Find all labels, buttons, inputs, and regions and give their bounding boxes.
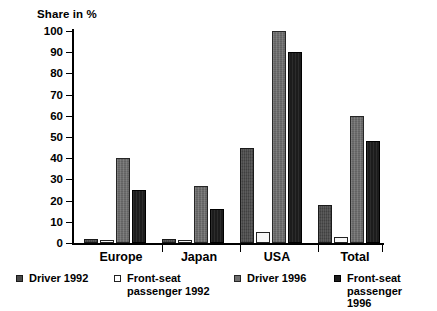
y-tick-mark [66,73,72,74]
x-axis-line [72,243,384,245]
legend-item-3[interactable]: Front-seat passenger 1996 [334,272,426,310]
legend-swatch-icon [114,275,121,282]
category-label-total: Total [310,250,400,264]
y-tick-label: 40 [50,152,63,164]
y-tick-mark [66,243,72,244]
legend-label: Front-seat passenger 1996 [347,272,426,310]
legend-label: Driver 1992 [29,272,88,285]
y-tick-label: 20 [50,195,63,207]
legend-item-1[interactable]: Front-seat passenger 1992 [114,272,210,297]
bar-total-series-1 [334,237,348,243]
bar-europe-series-3 [132,190,146,243]
y-tick-mark [66,201,72,202]
category-label-europe: Europe [76,250,166,264]
y-tick-mark [66,179,72,180]
legend-swatch-icon [234,275,241,282]
legend-swatch-icon [334,275,341,282]
category-label-japan: Japan [154,250,244,264]
y-tick-label: 50 [50,131,63,143]
y-tick-label: 100 [44,25,63,37]
bar-japan-series-2 [194,186,208,243]
y-tick-label: 30 [50,173,63,185]
y-tick-label: 80 [50,67,63,79]
bar-japan-series-0 [162,239,176,243]
y-axis-line [72,29,74,245]
plot-area: 0102030405060708090100 EuropeJapanUSATot… [72,29,384,245]
y-tick-label: 10 [50,216,63,228]
y-tick-mark [66,158,72,159]
y-tick-label: 60 [50,110,63,122]
y-tick-mark [66,31,72,32]
legend-item-0[interactable]: Driver 1992 [16,272,88,285]
bar-total-series-0 [318,205,332,243]
bar-europe-series-0 [84,239,98,243]
legend-label: Front-seat passenger 1992 [127,272,210,297]
chart-legend: Driver 1992Front-seat passenger 1992Driv… [16,272,426,308]
bar-europe-series-2 [116,158,130,243]
y-axis-title: Share in % [37,8,97,20]
bar-usa-series-2 [272,31,286,243]
y-tick-label: 0 [57,237,63,249]
bar-japan-series-1 [178,240,192,243]
bar-usa-series-0 [240,148,254,243]
legend-swatch-icon [16,275,23,282]
y-tick-mark [66,52,72,53]
y-tick-mark [66,95,72,96]
bar-japan-series-3 [210,209,224,243]
category-label-usa: USA [232,250,322,264]
legend-item-2[interactable]: Driver 1996 [234,272,306,285]
bar-usa-series-3 [288,52,302,243]
y-tick-label: 70 [50,89,63,101]
y-tick-mark [66,116,72,117]
bar-total-series-3 [366,141,380,243]
bar-europe-series-1 [100,240,114,243]
y-tick-label: 90 [50,46,63,58]
y-tick-mark [66,222,72,223]
y-tick-mark [66,137,72,138]
bar-total-series-2 [350,116,364,243]
bar-chart: Share in % 0102030405060708090100 Europe… [0,0,437,311]
bar-usa-series-1 [256,232,270,243]
legend-label: Driver 1996 [247,272,306,285]
